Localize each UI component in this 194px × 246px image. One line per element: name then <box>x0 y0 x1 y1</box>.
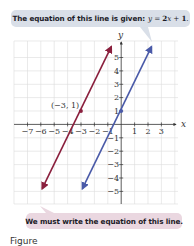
y-axis-label: y <box>117 30 124 40</box>
point-neg3-1 <box>79 109 83 113</box>
x-tick-labels: −7 −6 −5 −4 −3 −2 −1 1 2 3 <box>22 127 164 136</box>
svg-text:−3: −3 <box>107 160 119 169</box>
svg-text:−2: −2 <box>107 147 119 156</box>
svg-text:2: 2 <box>114 93 119 102</box>
svg-text:−5: −5 <box>107 187 119 196</box>
svg-text:−2: −2 <box>89 127 101 136</box>
svg-text:3: 3 <box>114 80 119 89</box>
svg-text:−5: −5 <box>48 127 60 136</box>
grid <box>14 41 178 204</box>
red-line <box>42 47 111 189</box>
bottom-callout-pointer <box>40 206 54 213</box>
point-label: (−3, 1) <box>51 101 79 110</box>
svg-text:−4: −4 <box>107 174 119 183</box>
svg-text:5: 5 <box>114 53 119 62</box>
svg-text:−3: −3 <box>75 127 87 136</box>
svg-text:−6: −6 <box>35 127 47 136</box>
bottom-callout-text: We must write the equation of this line. <box>25 217 183 226</box>
svg-text:4: 4 <box>114 67 119 76</box>
svg-text:1: 1 <box>132 127 137 136</box>
figure-label: Figure <box>10 236 37 246</box>
point-0-1 <box>119 109 123 113</box>
x-axis-label: x <box>181 119 186 129</box>
bottom-callout: We must write the equation of this line. <box>26 213 182 229</box>
svg-text:2: 2 <box>145 127 150 136</box>
svg-text:3: 3 <box>159 127 164 136</box>
svg-text:−7: −7 <box>22 127 34 136</box>
top-callout-pointer <box>140 27 152 42</box>
